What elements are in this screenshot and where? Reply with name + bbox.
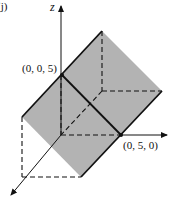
point-label-0-5-0: (0, 5, 0): [123, 139, 158, 152]
point-0-5-0: [119, 133, 123, 137]
x-axis: [11, 135, 61, 195]
panel-label: (j): [0, 0, 8, 13]
plane-diagram: (j) z (0, 0, 5) (0, 5, 0): [0, 0, 172, 199]
point-label-0-0-5: (0, 0, 5): [22, 62, 57, 75]
point-0-0-5: [60, 73, 64, 77]
plane-surface: [22, 31, 162, 177]
z-axis-label: z: [49, 0, 55, 14]
